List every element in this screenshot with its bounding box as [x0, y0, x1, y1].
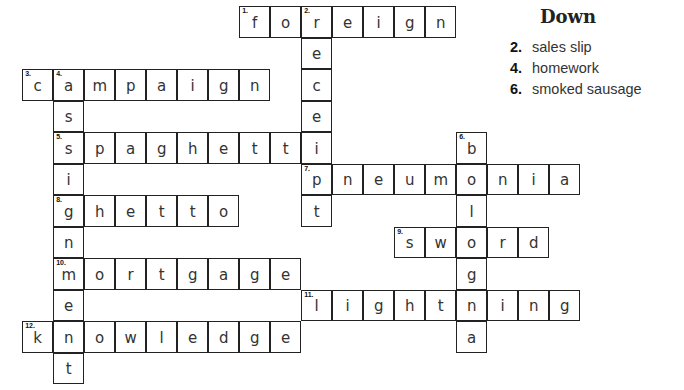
grid-cell[interactable]: t	[146, 195, 177, 227]
cell-letter: h	[95, 203, 105, 221]
clue-down-6: 6. smoked sausage	[510, 79, 684, 100]
grid-cell[interactable]: m	[425, 164, 456, 196]
cell-letter: m	[433, 171, 448, 189]
grid-cell[interactable]: t	[177, 195, 208, 227]
cell-letter: g	[405, 14, 415, 32]
grid-cell[interactable]: 7.p	[301, 164, 332, 196]
grid-cell[interactable]: a	[115, 132, 146, 164]
grid-cell[interactable]: 6.b	[456, 132, 487, 164]
grid-cell[interactable]: o	[84, 321, 115, 353]
grid-cell[interactable]: l	[146, 321, 177, 353]
grid-cell[interactable]: 2.r	[301, 6, 332, 38]
grid-cell[interactable]: g	[239, 258, 270, 290]
grid-cell[interactable]: e	[301, 38, 332, 70]
grid-cell[interactable]: h	[394, 290, 425, 322]
grid-cell[interactable]: g	[239, 321, 270, 353]
grid-cell[interactable]: n	[53, 321, 84, 353]
grid-cell[interactable]: o	[84, 258, 115, 290]
grid-cell[interactable]: d	[518, 227, 549, 259]
grid-cell[interactable]: g	[456, 258, 487, 290]
grid-cell[interactable]: r	[115, 258, 146, 290]
grid-cell[interactable]: 1.f	[239, 6, 270, 38]
grid-cell[interactable]: 11.l	[301, 290, 332, 322]
grid-cell[interactable]: g	[363, 290, 394, 322]
cell-letter: t	[66, 360, 72, 378]
grid-cell[interactable]: e	[363, 164, 394, 196]
grid-cell[interactable]: g	[146, 132, 177, 164]
cell-letter: n	[467, 297, 477, 315]
grid-cell[interactable]: i	[301, 132, 332, 164]
grid-cell[interactable]: s	[53, 101, 84, 133]
grid-cell[interactable]: i	[518, 164, 549, 196]
grid-cell[interactable]: t	[301, 195, 332, 227]
grid-cell[interactable]: w	[425, 227, 456, 259]
grid-cell[interactable]: 12.k	[22, 321, 53, 353]
grid-cell[interactable]: 4.a	[53, 69, 84, 101]
grid-cell[interactable]: e	[332, 6, 363, 38]
grid-cell[interactable]: o	[208, 195, 239, 227]
grid-cell[interactable]: w	[115, 321, 146, 353]
grid-cell[interactable]: e	[301, 101, 332, 133]
clue-text: homework	[532, 60, 599, 76]
grid-cell[interactable]: p	[115, 69, 146, 101]
cell-letter: l	[470, 203, 474, 221]
grid-cell[interactable]: e	[115, 195, 146, 227]
grid-cell[interactable]: i	[363, 6, 394, 38]
grid-cell[interactable]: 5.s	[53, 132, 84, 164]
grid-cell[interactable]: o	[456, 164, 487, 196]
grid-cell[interactable]: n	[456, 290, 487, 322]
grid-cell[interactable]: g	[549, 290, 580, 322]
grid-cell[interactable]: n	[425, 6, 456, 38]
cell-letter: g	[157, 140, 167, 158]
grid-cell[interactable]: g	[394, 6, 425, 38]
grid-cell[interactable]: a	[549, 164, 580, 196]
grid-cell[interactable]: n	[239, 69, 270, 101]
grid-cell[interactable]: h	[84, 195, 115, 227]
grid-cell[interactable]: 9.s	[394, 227, 425, 259]
grid-cell[interactable]: e	[208, 132, 239, 164]
cell-letter: a	[126, 140, 135, 158]
grid-cell[interactable]: n	[53, 227, 84, 259]
grid-cell[interactable]: i	[53, 164, 84, 196]
grid-cell[interactable]: t	[53, 353, 84, 385]
grid-cell[interactable]: i	[332, 290, 363, 322]
grid-cell[interactable]: a	[456, 321, 487, 353]
clue-number-label: 2.	[304, 7, 310, 14]
grid-cell[interactable]: t	[425, 290, 456, 322]
grid-cell[interactable]: i	[177, 69, 208, 101]
grid-cell[interactable]: p	[84, 132, 115, 164]
grid-cell[interactable]: o	[456, 227, 487, 259]
cell-letter: g	[250, 266, 260, 284]
grid-cell[interactable]: n	[518, 290, 549, 322]
cell-letter: s	[406, 234, 414, 252]
grid-cell[interactable]: l	[456, 195, 487, 227]
grid-cell[interactable]: r	[487, 227, 518, 259]
grid-cell[interactable]: o	[270, 6, 301, 38]
grid-cell[interactable]: n	[487, 164, 518, 196]
grid-cell[interactable]: g	[208, 69, 239, 101]
grid-cell[interactable]: d	[208, 321, 239, 353]
grid-cell[interactable]: 10.m	[53, 258, 84, 290]
clue-down-4: 4. homework	[510, 58, 684, 79]
grid-cell[interactable]: 8.g	[53, 195, 84, 227]
cell-letter: e	[312, 108, 321, 126]
cell-letter: o	[95, 329, 104, 347]
grid-cell[interactable]: n	[332, 164, 363, 196]
grid-cell[interactable]: m	[84, 69, 115, 101]
cell-letter: n	[64, 234, 74, 252]
grid-cell[interactable]: h	[177, 132, 208, 164]
grid-cell[interactable]: 3.c	[22, 69, 53, 101]
grid-cell[interactable]: a	[208, 258, 239, 290]
grid-cell[interactable]: e	[53, 290, 84, 322]
grid-cell[interactable]: t	[270, 132, 301, 164]
grid-cell[interactable]: e	[270, 321, 301, 353]
grid-cell[interactable]: a	[146, 69, 177, 101]
grid-cell[interactable]: g	[177, 258, 208, 290]
grid-cell[interactable]: e	[177, 321, 208, 353]
grid-cell[interactable]: c	[301, 69, 332, 101]
grid-cell[interactable]: u	[394, 164, 425, 196]
grid-cell[interactable]: i	[487, 290, 518, 322]
grid-cell[interactable]: e	[270, 258, 301, 290]
grid-cell[interactable]: t	[146, 258, 177, 290]
grid-cell[interactable]: t	[239, 132, 270, 164]
